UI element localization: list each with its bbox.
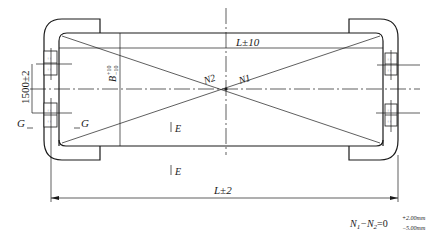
b-width-label: B +10 −10: [106, 66, 119, 82]
diagonal-tolerance-formula: N1−N2=0 +2.00mm −5.00mm: [349, 215, 426, 231]
svg-text:G: G: [81, 117, 89, 129]
svg-text:G: G: [17, 117, 25, 129]
svg-text:−10: −10: [113, 66, 119, 75]
left-lower-bolt-plate: ++ ++: [32, 98, 72, 132]
section-g-right: G: [74, 117, 89, 129]
svg-text:B: B: [107, 76, 118, 82]
height-dimension: 1500±2: [19, 64, 32, 113]
svg-text:++: ++: [387, 119, 392, 124]
svg-text:+2.00mm: +2.00mm: [402, 215, 426, 221]
svg-text:++: ++: [387, 108, 392, 113]
right-end-channel: [349, 19, 398, 160]
svg-text:++: ++: [47, 67, 52, 72]
diagonal-n1-label: N1: [236, 72, 251, 86]
diagonal-intersection: [224, 87, 227, 90]
section-g-left: G: [17, 117, 33, 129]
bottom-length-dimension: L±2: [51, 132, 398, 202]
frame-drawing: ++ ++ ++ ++ ++ ++ ++ ++ 1500±2 B +10 −10: [0, 0, 433, 243]
svg-text:++: ++: [47, 108, 52, 113]
svg-text:E: E: [174, 166, 181, 177]
svg-text:E: E: [174, 123, 181, 134]
diagonal-n2-label: N2: [201, 72, 216, 86]
left-end-channel: [44, 19, 100, 160]
svg-text:++: ++: [47, 56, 52, 61]
svg-text:++: ++: [387, 57, 392, 62]
svg-text:−5.00mm: −5.00mm: [402, 225, 426, 231]
top-length-label: L±10: [235, 36, 260, 48]
section-e-bottom: E: [171, 165, 181, 177]
section-e-top: E: [171, 122, 181, 134]
svg-text:++: ++: [47, 119, 52, 124]
svg-text:+10: +10: [106, 66, 112, 75]
bottom-length-label: L±2: [213, 184, 232, 196]
left-upper-bolt-plate: ++ ++: [36, 48, 72, 80]
svg-text:N1−N2=0: N1−N2=0: [349, 218, 388, 231]
height-dimension-label: 1500±2: [19, 70, 31, 104]
svg-text:++: ++: [387, 68, 392, 73]
